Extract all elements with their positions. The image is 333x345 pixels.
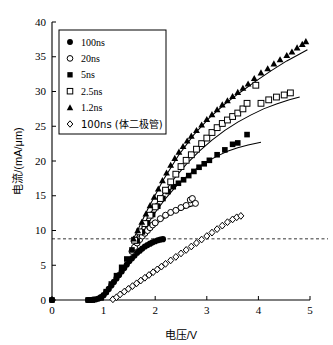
data-point-open-square xyxy=(266,97,272,103)
y-tick-label: 5 xyxy=(41,259,47,271)
y-tick-label: 40 xyxy=(35,16,47,28)
legend-label: 2.5ns xyxy=(81,86,103,97)
data-point-filled-square xyxy=(201,161,207,167)
data-point-open-square xyxy=(178,164,184,170)
chart-canvas: 012345 0510152025303540 100ns20ns5ns2.5n… xyxy=(0,0,333,345)
data-point-open-circle xyxy=(67,56,73,62)
data-point-open-circle xyxy=(192,200,198,206)
y-tick-label: 20 xyxy=(35,155,47,167)
data-point-open-square xyxy=(281,92,287,98)
x-tick-label: 1 xyxy=(101,304,107,316)
x-axis-title: 电压/V xyxy=(165,329,198,341)
data-point-filled-square xyxy=(89,297,95,303)
data-point-open-square xyxy=(67,88,73,94)
data-point-open-square xyxy=(183,157,189,163)
data-point-open-square xyxy=(199,141,205,147)
y-tick-label: 30 xyxy=(35,85,47,97)
legend-label: 5ns xyxy=(81,69,95,80)
x-tick-label: 4 xyxy=(256,304,262,316)
data-point-filled-square xyxy=(103,289,109,295)
y-tick-label: 0 xyxy=(41,294,47,306)
data-point-open-square xyxy=(204,135,210,141)
data-point-filled-square xyxy=(67,72,72,77)
y-tick-label: 25 xyxy=(35,120,47,132)
data-point-filled-square xyxy=(222,147,228,153)
data-point-open-circle xyxy=(152,220,158,226)
data-point-open-square xyxy=(258,100,264,106)
data-point-open-square xyxy=(173,171,179,177)
data-point-open-square xyxy=(168,179,174,185)
data-point-open-square xyxy=(240,106,246,112)
data-point-open-square xyxy=(152,204,158,210)
data-point-open-square xyxy=(253,82,259,88)
data-point-filled-square xyxy=(124,256,130,262)
data-point-filled-square xyxy=(186,173,192,179)
x-tick-label: 0 xyxy=(49,304,55,316)
data-point-open-square xyxy=(244,100,250,106)
data-point-filled-square xyxy=(196,164,202,170)
data-point-filled-square xyxy=(230,142,236,148)
data-point-filled-square xyxy=(244,132,250,138)
data-point-filled-square xyxy=(49,297,55,303)
y-tick-label: 15 xyxy=(35,189,47,201)
legend: 100ns20ns5ns2.5ns1.2ns100ns (体二极管) xyxy=(59,30,166,134)
data-point-open-square xyxy=(274,94,280,100)
legend-item-100ns-[interactable]: 100ns (体二极管) xyxy=(67,118,163,130)
data-point-filled-square xyxy=(114,273,120,279)
data-point-filled-square xyxy=(207,158,213,164)
legend-label: 20ns xyxy=(81,53,100,64)
data-point-filled-square xyxy=(181,177,187,183)
data-point-filled-square xyxy=(129,247,135,253)
data-point-open-square xyxy=(287,90,293,96)
data-point-filled-square xyxy=(235,140,241,146)
data-point-filled-square xyxy=(214,152,220,158)
data-point-filled-square xyxy=(119,265,125,271)
data-point-filled-square xyxy=(191,169,197,175)
chart-figure: 012345 0510152025303540 100ns20ns5ns2.5n… xyxy=(0,0,333,345)
legend-label: 1.2ns xyxy=(81,102,103,113)
x-tick-label: 3 xyxy=(204,304,210,316)
legend-label: 100ns (体二极管) xyxy=(81,118,163,130)
data-point-filled-circle xyxy=(67,39,73,45)
y-tick-label: 35 xyxy=(35,50,47,62)
data-point-open-square xyxy=(188,152,194,158)
x-tick-label: 2 xyxy=(152,304,158,316)
x-tick-label: 5 xyxy=(307,304,313,316)
data-point-open-square xyxy=(194,146,200,152)
data-point-open-circle xyxy=(183,202,189,208)
y-tick-label: 10 xyxy=(35,224,47,236)
data-point-filled-square xyxy=(98,295,104,301)
data-point-open-square xyxy=(163,187,169,193)
legend-label: 100ns xyxy=(81,37,105,48)
data-point-open-square xyxy=(157,196,163,202)
data-point-filled-circle xyxy=(160,236,166,242)
y-axis-title: 电流/(mA/μm) xyxy=(11,127,24,194)
data-point-filled-square xyxy=(176,180,182,186)
data-point-filled-square xyxy=(109,281,115,287)
